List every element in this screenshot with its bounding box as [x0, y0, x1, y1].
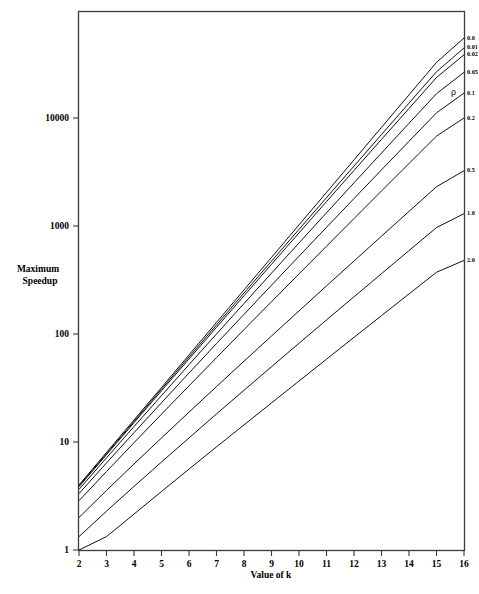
x-tick-label: 4 [132, 559, 137, 569]
series-label-rho-2-0: 2.0 [467, 256, 475, 263]
series-lines-group [79, 38, 464, 550]
x-tick-label: 11 [322, 559, 331, 569]
x-tick-label: 7 [214, 559, 219, 569]
x-tick-label: 2 [77, 559, 82, 569]
x-tick-label: 8 [242, 559, 247, 569]
y-tick-label: 10000 [45, 113, 69, 123]
y-tick-label: 10 [60, 437, 70, 447]
x-tick-label: 12 [349, 559, 359, 569]
x-axis-title: Value of k [251, 570, 293, 580]
x-tick-label: 16 [459, 559, 469, 569]
series-line-rho-0-05 [79, 72, 464, 489]
x-tick-label: 5 [159, 559, 164, 569]
series-line-rho-0-1 [79, 93, 464, 493]
x-tick-label: 10 [294, 559, 304, 569]
figure-container: 110100100010000 2345678910111213141516 0… [0, 0, 479, 594]
y-tick-label: 100 [55, 329, 70, 339]
y-axis-ticks: 110100100010000 [45, 113, 79, 555]
series-line-rho-0-02 [79, 55, 464, 487]
series-label-rho-0-02: 0.02 [467, 50, 478, 57]
series-label-rho-0-0: 0.0 [467, 34, 475, 41]
y-axis-title-line2: Speedup [23, 276, 58, 286]
x-tick-label: 15 [432, 559, 442, 569]
x-axis-ticks: 2345678910111213141516 [77, 550, 469, 569]
x-tick-label: 13 [377, 559, 387, 569]
series-line-rho-0-5 [79, 171, 464, 518]
series-label-rho-0-1: 0.1 [467, 89, 475, 96]
series-label-rho-1-0: 1.0 [467, 209, 475, 216]
y-axis-title-line1: Maximum [17, 264, 59, 274]
y-tick-label: 1000 [50, 221, 69, 231]
x-tick-label: 14 [404, 559, 414, 569]
legend-title-rho: ρ [451, 86, 456, 97]
series-line-rho-1-0 [79, 214, 464, 537]
x-tick-label: 6 [187, 559, 192, 569]
y-tick-label: 1 [64, 545, 69, 555]
series-line-rho-2-0 [79, 260, 464, 550]
series-label-rho-0-05: 0.05 [467, 68, 478, 75]
series-label-rho-0-2: 0.2 [467, 114, 475, 121]
series-label-rho-0-5: 0.5 [467, 166, 475, 173]
x-tick-label: 3 [104, 559, 109, 569]
x-tick-label: 9 [269, 559, 274, 569]
speedup-log-line-chart: 110100100010000 2345678910111213141516 0… [0, 0, 479, 594]
plot-frame [79, 12, 465, 551]
series-labels-group: 0.00.010.020.050.10.20.51.02.0 [467, 34, 478, 263]
series-line-rho-0-2 [79, 118, 464, 501]
